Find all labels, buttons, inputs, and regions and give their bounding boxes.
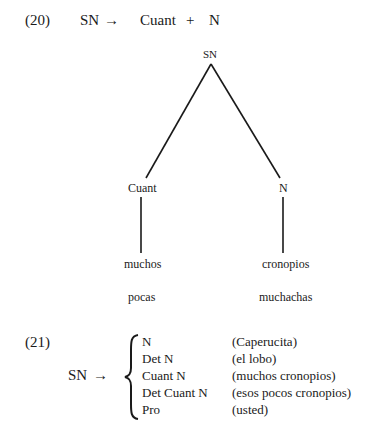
expansion-rules: N Det N Cuant N Det Cuant N Pro <box>142 333 208 418</box>
rule-21-lhs: SN <box>68 367 87 384</box>
example-21-number: (21) <box>25 334 50 351</box>
tree-leaf-cronopios: cronopios <box>262 257 309 272</box>
expansion-rule: Det Cuant N <box>142 384 208 401</box>
expansion-rule: Pro <box>142 401 208 418</box>
expansion-rule: Cuant N <box>142 367 208 384</box>
expansion-example: (esos pocos cronopios) <box>232 384 351 401</box>
expansion-example: (usted) <box>232 401 351 418</box>
branch-sn-cuant <box>146 64 211 178</box>
rule-21-arrow-icon: → <box>93 367 108 384</box>
expansion-example: (muchos cronopios) <box>232 367 351 384</box>
expansion-rule: N <box>142 333 208 350</box>
expansion-example: (Caperucita) <box>232 333 351 350</box>
tree-alt-muchachas: muchachas <box>259 290 312 305</box>
tree-leaf-muchos: muchos <box>124 257 161 272</box>
tree-node-cuant: Cuant <box>128 181 157 196</box>
expansion-rule: Det N <box>142 350 208 367</box>
tree-node-n: N <box>279 181 288 196</box>
branch-sn-n <box>211 64 280 178</box>
tree-alt-pocas: pocas <box>128 290 155 305</box>
left-brace-icon <box>124 334 140 420</box>
expansion-example: (el lobo) <box>232 350 351 367</box>
tree-root-sn: SN <box>203 48 217 60</box>
expansion-examples: (Caperucita) (el lobo) (muchos cronopios… <box>232 333 351 418</box>
